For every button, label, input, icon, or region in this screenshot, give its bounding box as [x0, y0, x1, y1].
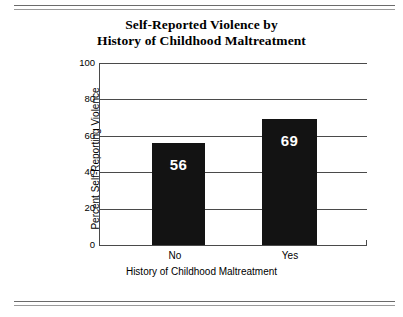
gridline-80 [99, 99, 367, 100]
x-axis-line [99, 245, 367, 246]
plot-area: 56 69 [99, 63, 367, 245]
gridline-20 [99, 209, 367, 210]
bar-yes[interactable]: 69 [262, 119, 317, 245]
gridline-60 [99, 136, 367, 137]
y-tick-label-40: 40 [67, 167, 95, 177]
gridline-40 [99, 172, 367, 173]
x-axis-title: History of Childhood Maltreatment [0, 266, 403, 277]
chart-title: Self-Reported Violence by History of Chi… [0, 17, 403, 48]
chart-title-line-2: History of Childhood Maltreatment [0, 33, 403, 49]
bar-value-yes: 69 [262, 133, 317, 148]
bar-value-no: 56 [152, 157, 205, 172]
y-tick-label-80: 80 [67, 94, 95, 104]
y-tick-label-20: 20 [67, 203, 95, 213]
chart-title-line-1: Self-Reported Violence by [0, 17, 403, 33]
category-label-no: No [132, 250, 218, 261]
gridline-100 [99, 63, 367, 64]
y-tick-label-100: 100 [67, 58, 95, 68]
bar-no[interactable]: 56 [152, 143, 205, 245]
y-tick-label-60: 60 [67, 131, 95, 141]
category-label-yes: Yes [247, 250, 333, 261]
y-tick-label-0: 0 [67, 240, 95, 250]
chart-page: { "figure": { "title_line1": "Self-Repor… [0, 0, 403, 317]
